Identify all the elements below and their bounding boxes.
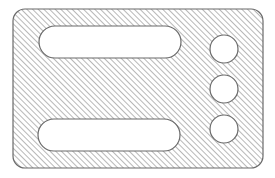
hole-middle: [210, 75, 238, 103]
slot-top: [39, 26, 181, 58]
holes-group: [210, 35, 238, 143]
hole-top: [210, 35, 238, 63]
hole-bottom: [210, 115, 238, 143]
slot-bottom: [38, 119, 180, 151]
cross-section-diagram: [0, 0, 275, 178]
